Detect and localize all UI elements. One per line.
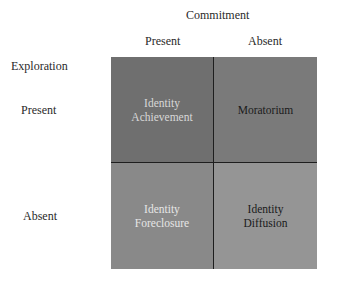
cell-text: Foreclosure [135,216,189,230]
identity-status-matrix: IdentityAchievement Moratorium IdentityF… [111,57,317,269]
cell-identity-achievement: IdentityAchievement [111,57,214,163]
cell-text: Identity [131,96,192,110]
cell-text: Moratorium [238,103,294,117]
cell-moratorium: Moratorium [214,57,317,163]
row-label-present: Present [21,103,56,118]
column-axis-title: Commitment [186,8,249,23]
cell-text: Achievement [131,110,192,124]
cell-identity-foreclosure: IdentityForeclosure [111,163,214,269]
cell-text: Identity [135,202,189,216]
cell-identity-diffusion: IdentityDiffusion [214,163,317,269]
column-label-present: Present [145,34,180,49]
row-axis-title: Exploration [11,59,68,74]
row-label-absent: Absent [23,209,57,224]
column-label-absent: Absent [248,34,282,49]
cell-text: Identity [244,202,288,216]
cell-text: Diffusion [244,216,288,230]
